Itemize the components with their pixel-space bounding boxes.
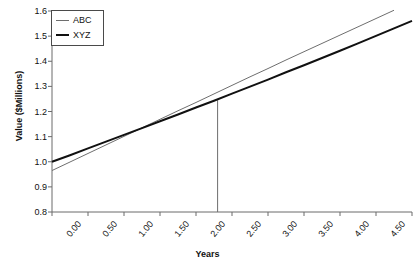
- line-chart: Comparison 0.80.91.01.11.21.31.41.51.6 0…: [0, 0, 415, 264]
- y-tick-label: 1.1: [22, 132, 47, 142]
- y-tick-label: 1.0: [22, 157, 47, 167]
- y-tick-label: 1.2: [22, 107, 47, 117]
- y-tick-label: 0.8: [22, 207, 47, 217]
- y-tick-label: 1.5: [22, 31, 47, 41]
- y-tick-label: 1.6: [22, 6, 47, 16]
- legend-swatch-xyz-icon: [56, 34, 69, 36]
- legend-swatch-abc-icon: [56, 20, 69, 21]
- chart-legend: ABC XYZ: [51, 10, 104, 46]
- y-tick-label: 1.3: [22, 81, 47, 91]
- legend-label-xyz: XYZ: [73, 31, 91, 40]
- legend-item-abc: ABC: [56, 14, 92, 26]
- y-axis-title: Value ($Millions): [14, 46, 24, 166]
- y-tick-label: 0.9: [22, 182, 47, 192]
- series-line-xyz: [52, 21, 412, 162]
- legend-item-xyz: XYZ: [56, 29, 91, 41]
- y-tick-label: 1.4: [22, 56, 47, 66]
- legend-label-abc: ABC: [73, 16, 92, 25]
- x-axis-title: Years: [0, 249, 415, 259]
- y-axis-tick-labels: 0.80.91.01.11.21.31.41.51.6: [22, 0, 47, 264]
